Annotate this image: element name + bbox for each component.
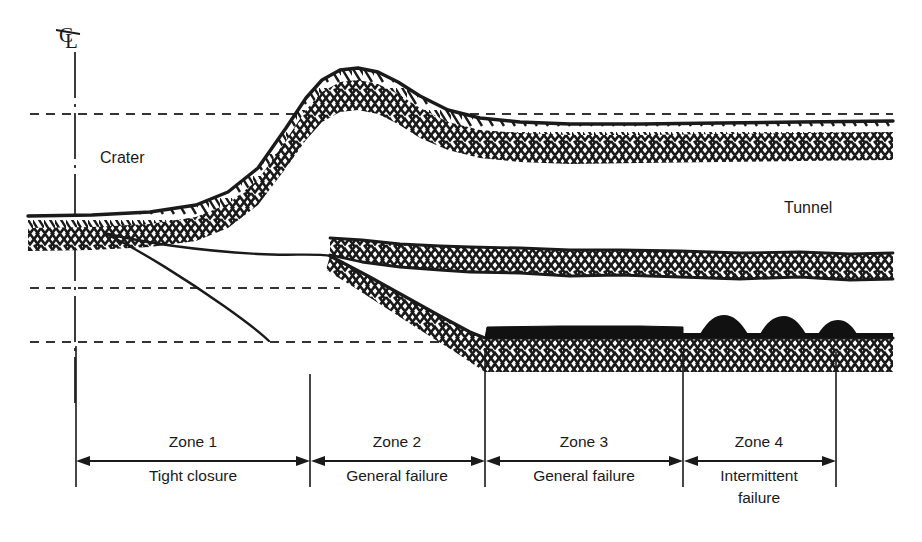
zone-4-title: Zone 4 (735, 433, 784, 450)
zone-4-subtitle: Intermittent (720, 467, 798, 484)
zone-4-subtitle-line2: failure (738, 489, 780, 506)
zone-2-subtitle: General failure (346, 467, 448, 484)
zone-2-title: Zone 2 (373, 433, 421, 450)
label-tunnel: Tunnel (784, 199, 832, 216)
debris-fill-zone3 (485, 326, 683, 338)
figure-root: C L (0, 0, 922, 542)
continuous-debris-band (485, 326, 683, 338)
label-crater: Crater (100, 149, 145, 166)
cross-section-diagram: C L (0, 0, 922, 542)
zone-1-subtitle: Tight closure (149, 467, 237, 484)
zone-1-title: Zone 1 (169, 433, 217, 450)
zone-3-subtitle: General failure (533, 467, 635, 484)
zone-3-title: Zone 3 (560, 433, 608, 450)
